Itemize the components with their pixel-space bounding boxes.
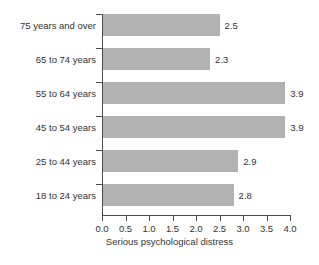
value-axis-tick-label: 0.0 — [90, 223, 114, 234]
value-axis-tick — [243, 216, 244, 221]
value-axis-tick — [173, 216, 174, 221]
bar — [102, 150, 238, 172]
bar-row: 18 to 24 years 2.8 — [0, 184, 319, 206]
category-label: 75 years and over — [0, 20, 96, 31]
value-axis-tick — [290, 216, 291, 221]
value-axis-tick-label: 1.5 — [161, 223, 185, 234]
bar-row: 65 to 74 years 2.3 — [0, 48, 319, 70]
value-axis-tick — [149, 216, 150, 221]
value-label: 2.8 — [239, 190, 252, 201]
category-label: 25 to 44 years — [0, 156, 96, 167]
bar-row: 75 years and over 2.5 — [0, 14, 319, 36]
value-axis-tick — [126, 216, 127, 221]
value-axis-tick-label: 2.0 — [184, 223, 208, 234]
value-axis-tick — [267, 216, 268, 221]
value-axis-tick — [220, 216, 221, 221]
bar — [102, 82, 285, 104]
value-axis-tick — [102, 216, 103, 221]
category-axis-tick — [96, 14, 102, 15]
category-label: 55 to 64 years — [0, 88, 96, 99]
bar-row: 55 to 64 years 3.9 — [0, 82, 319, 104]
category-axis-line — [102, 14, 103, 215]
value-axis-tick-label: 3.0 — [231, 223, 255, 234]
bar-row: 25 to 44 years 2.9 — [0, 150, 319, 172]
category-axis-tick — [96, 184, 102, 185]
value-axis-tick — [196, 216, 197, 221]
value-label: 2.3 — [215, 54, 228, 65]
category-axis-tick — [96, 116, 102, 117]
category-label: 65 to 74 years — [0, 54, 96, 65]
clipped-caption — [8, 258, 311, 265]
category-label: 45 to 54 years — [0, 122, 96, 133]
value-label: 3.9 — [290, 122, 303, 133]
bar — [102, 116, 285, 138]
value-label: 2.5 — [225, 20, 238, 31]
bar — [102, 48, 210, 70]
plot-area: 75 years and over 2.5 65 to 74 years 2.3… — [0, 0, 319, 225]
category-axis-tick — [96, 82, 102, 83]
category-axis-tick — [96, 150, 102, 151]
value-label: 2.9 — [243, 156, 256, 167]
value-axis-tick-label: 4.0 — [278, 223, 302, 234]
bar-row: 45 to 54 years 3.9 — [0, 116, 319, 138]
bar — [102, 14, 220, 36]
x-axis-title: Serious psychological distress — [0, 236, 319, 248]
value-axis-tick-label: 0.5 — [114, 223, 138, 234]
value-axis-tick-label: 2.5 — [208, 223, 232, 234]
horizontal-bar-chart: 75 years and over 2.5 65 to 74 years 2.3… — [0, 0, 319, 265]
value-label: 3.9 — [290, 88, 303, 99]
value-axis-tick-label: 3.5 — [255, 223, 279, 234]
category-axis-tick — [96, 48, 102, 49]
value-axis-tick-label: 1.0 — [137, 223, 161, 234]
bar — [102, 184, 234, 206]
category-label: 18 to 24 years — [0, 190, 96, 201]
